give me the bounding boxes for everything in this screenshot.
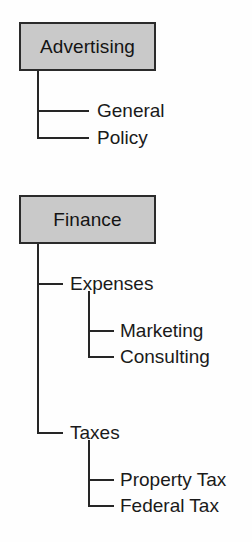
leaf-consulting-label: Consulting bbox=[120, 346, 210, 367]
branch-taxes[interactable]: Taxes bbox=[70, 423, 120, 442]
connector-taxes-federal bbox=[88, 505, 114, 507]
leaf-consulting[interactable]: Consulting bbox=[120, 347, 210, 366]
diagram-canvas: Advertising General Policy Finance Expen… bbox=[0, 0, 252, 542]
connector-taxes-property bbox=[88, 479, 114, 481]
leaf-property-tax-label: Property Tax bbox=[120, 469, 226, 490]
branch-expenses[interactable]: Expenses bbox=[70, 274, 153, 293]
connector-finance-trunk bbox=[37, 244, 39, 434]
connector-expenses-consulting bbox=[88, 356, 114, 358]
leaf-federal-tax[interactable]: Federal Tax bbox=[120, 496, 219, 515]
node-finance[interactable]: Finance bbox=[19, 195, 156, 244]
connector-advertising-trunk bbox=[37, 71, 39, 138]
connector-advertising-policy bbox=[37, 137, 89, 139]
connector-finance-expenses bbox=[37, 283, 63, 285]
leaf-policy-label: Policy bbox=[97, 127, 148, 148]
leaf-marketing-label: Marketing bbox=[120, 320, 203, 341]
leaf-policy[interactable]: Policy bbox=[97, 128, 148, 147]
node-advertising-label: Advertising bbox=[40, 37, 135, 56]
node-advertising[interactable]: Advertising bbox=[19, 22, 156, 71]
connector-expenses-marketing bbox=[88, 330, 114, 332]
connector-expenses-trunk bbox=[88, 291, 90, 357]
node-finance-label: Finance bbox=[53, 210, 121, 229]
connector-finance-taxes bbox=[37, 432, 63, 434]
connector-taxes-trunk bbox=[88, 440, 90, 506]
branch-expenses-label: Expenses bbox=[70, 273, 153, 294]
leaf-property-tax[interactable]: Property Tax bbox=[120, 470, 226, 489]
leaf-marketing[interactable]: Marketing bbox=[120, 321, 203, 340]
connector-advertising-general bbox=[37, 110, 89, 112]
leaf-federal-tax-label: Federal Tax bbox=[120, 495, 219, 516]
leaf-general[interactable]: General bbox=[97, 101, 165, 120]
branch-taxes-label: Taxes bbox=[70, 422, 120, 443]
leaf-general-label: General bbox=[97, 100, 165, 121]
